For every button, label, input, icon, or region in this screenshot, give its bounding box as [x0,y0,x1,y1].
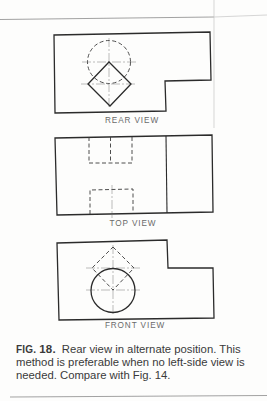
page-top-rule-extension [214,15,267,17]
front-view-outline [57,240,214,320]
top-view-label: TOP VIEW [110,219,157,228]
page-bottom-rule [10,396,267,398]
rear-view [54,32,211,113]
top-view-outline [55,135,213,215]
top-view-hidden-rect-lower [90,189,133,214]
orthographic-drawing [0,0,267,401]
figure-prefix: FIG. [16,344,36,355]
figure-caption: FIG. 18.Rear view in alternate position.… [16,343,260,383]
front-view [57,240,214,320]
page-top-rule [0,17,214,20]
top-view [55,135,213,218]
rear-view-label: REAR VIEW [105,116,159,125]
figure-number-value: 18. [39,343,56,355]
front-view-label: FRONT VIEW [105,321,165,330]
top-view-divider [166,136,167,213]
figure-number: FIG. 18. [16,344,56,355]
rear-view-outline [54,32,211,113]
rear-view-diamond [88,62,131,106]
